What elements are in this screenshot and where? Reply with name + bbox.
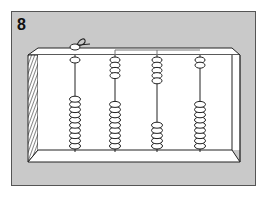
bead: [152, 122, 163, 128]
abacus-left-side: [28, 55, 38, 162]
bead: [152, 78, 162, 84]
bead: [195, 101, 206, 107]
abacus-top-face: [28, 48, 240, 55]
bead: [70, 96, 81, 102]
bead: [195, 62, 205, 68]
bead: [110, 73, 120, 79]
abacus-floor: [28, 150, 240, 162]
bead: [110, 101, 121, 107]
bead: [70, 57, 80, 63]
abacus-drawing: [0, 0, 270, 200]
abacus-back-panel: [38, 55, 240, 150]
